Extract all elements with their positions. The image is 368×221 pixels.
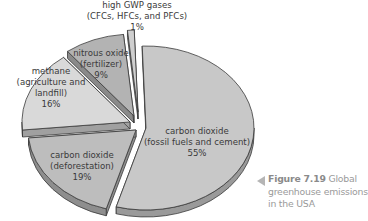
slice-label-line: 55% — [187, 148, 206, 158]
caption-arrow-icon — [257, 176, 265, 186]
figure-caption: Figure 7.19 Global greenhouse emissions … — [268, 173, 368, 211]
slice-label: high GWP gases(CFCs, HFCs, and PFCs)1% — [87, 0, 187, 32]
slice-label-line: 19% — [72, 172, 91, 182]
slice-label-line: landfill) — [35, 88, 67, 98]
slice-label-line: 16% — [41, 99, 60, 109]
slice-label-line: high GWP gases — [102, 0, 172, 10]
slice-label-line: (deforestation) — [50, 161, 114, 171]
pie-slices — [22, 30, 254, 217]
slice-label-line: methane — [32, 66, 70, 76]
slice-label-line: (fossil fuels and cement) — [144, 137, 250, 147]
slice-label-line: carbon dioxide — [165, 126, 228, 136]
slice-label-line: carbon dioxide — [50, 150, 113, 160]
slice-label-line: (fertilizer) — [80, 59, 122, 69]
figure-label: Figure 7.19 — [268, 173, 326, 184]
slice-label-line: (agriculture and — [17, 77, 86, 87]
slice-label-line: 9% — [94, 70, 108, 80]
slice-label-line: 1% — [130, 22, 144, 32]
slice-label-line: (CFCs, HFCs, and PFCs) — [87, 11, 187, 21]
slice-label-line: nitrous oxide — [73, 48, 129, 58]
